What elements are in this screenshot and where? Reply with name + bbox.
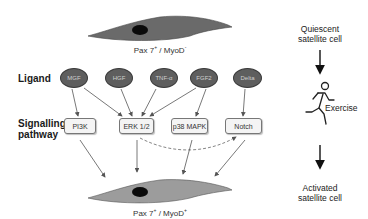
pathway-cell-arrows [80, 140, 245, 177]
activated-satellite-cell-label: Activatedsatellite cell [280, 183, 360, 203]
ligand-hgf: HGF [105, 68, 133, 88]
quiescent-cell-marker: Pax 7+ / MyoD- [100, 44, 220, 55]
activated-nucleus [132, 187, 148, 197]
pathway-row-label-line1: Signalling [18, 118, 66, 129]
activated-cell-marker: Pax 7+ / MyoD+ [100, 207, 220, 218]
ligand-fgf2: FGF2 [190, 68, 218, 88]
quiescent-cell-shape [88, 16, 232, 40]
ligand-delta: Delta [233, 68, 262, 88]
activated-cell-shape [88, 180, 232, 203]
erk-notch-dashed-arrow [140, 137, 236, 150]
quiescent-satellite-cell-label: Quiescentsatellite cell [280, 24, 360, 44]
ligand-pathway-arrows [72, 88, 245, 116]
ligand-row-label: Ligand [18, 73, 51, 84]
quiescent-nucleus [132, 25, 148, 35]
pathway-p38-mapk: p38 MAPK [171, 118, 208, 134]
pathway-notch: Notch [225, 118, 262, 134]
ligand-tnf-alpha: TNF-α [150, 68, 178, 88]
pathway-pi3k: PI3K [64, 118, 96, 134]
exercise-label: Exercise [325, 103, 368, 113]
pathway-row-label-line2: pathway [18, 129, 58, 140]
pathway-erk: ERK 1/2 [119, 118, 154, 134]
ligand-mgf: MGF [60, 68, 88, 88]
